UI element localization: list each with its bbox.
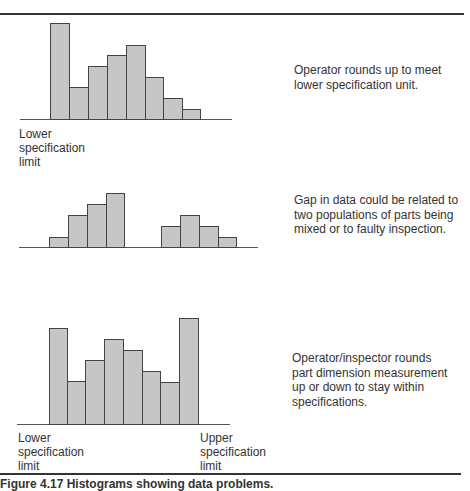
note-line: Operator/inspector rounds xyxy=(292,351,447,366)
label-line: Lower xyxy=(19,127,85,141)
bottom-rule xyxy=(0,473,461,475)
note-line: part dimension measurement xyxy=(292,366,447,381)
histogram-bar xyxy=(69,87,89,120)
chart-2-note: Gap in data could be related to two popu… xyxy=(294,193,458,237)
label-line: Upper xyxy=(200,431,266,445)
histogram-bar xyxy=(49,237,69,248)
histogram-bar xyxy=(180,215,200,248)
histogram-bar xyxy=(145,77,164,120)
histogram-bar xyxy=(104,339,124,425)
chart-1-note: Operator rounds up to meet lower specifi… xyxy=(294,63,441,92)
histogram-bar xyxy=(179,318,199,425)
upper-spec-limit-label: Upper specification limit xyxy=(200,431,266,473)
histogram-bar xyxy=(87,204,107,248)
histogram-bar xyxy=(126,45,146,120)
histogram-bar xyxy=(161,226,181,248)
note-line: mixed or to faulty inspection. xyxy=(294,222,458,237)
histogram-bar xyxy=(88,66,108,120)
figure-caption: Figure 4.17 Histograms showing data prob… xyxy=(0,477,273,491)
note-line: two populations of parts being xyxy=(294,208,458,223)
histogram-bar xyxy=(163,98,183,120)
histogram-bar xyxy=(218,237,237,248)
histogram-bar xyxy=(85,360,105,425)
histogram-bar xyxy=(123,350,143,425)
histogram-bar xyxy=(68,215,88,248)
label-line: limit xyxy=(18,459,84,473)
note-line: up or down to stay within xyxy=(292,380,447,395)
histogram-bar xyxy=(160,382,180,425)
histogram-bar xyxy=(142,371,161,425)
note-line: specifications. xyxy=(292,395,447,410)
label-line: specification xyxy=(200,445,266,459)
lower-spec-limit-label: Lower specification limit xyxy=(19,127,85,169)
histogram-bar xyxy=(49,328,68,425)
note-line: Operator rounds up to meet xyxy=(294,63,441,78)
histogram-bar xyxy=(199,226,219,248)
label-line: Lower xyxy=(18,431,84,445)
label-line: limit xyxy=(19,155,85,169)
histogram-bar xyxy=(182,109,201,120)
note-line: lower specification unit. xyxy=(294,78,441,93)
label-line: specification xyxy=(18,445,84,459)
histogram-bar xyxy=(50,23,70,120)
note-line: Gap in data could be related to xyxy=(294,193,458,208)
top-rule xyxy=(0,13,464,15)
label-line: limit xyxy=(200,459,266,473)
histogram-bar xyxy=(107,55,127,120)
histogram-bar xyxy=(106,193,125,248)
histogram-bar xyxy=(67,381,86,425)
label-line: specification xyxy=(19,141,85,155)
lower-spec-limit-label: Lower specification limit xyxy=(18,431,84,473)
chart-3-note: Operator/inspector rounds part dimension… xyxy=(292,351,447,409)
